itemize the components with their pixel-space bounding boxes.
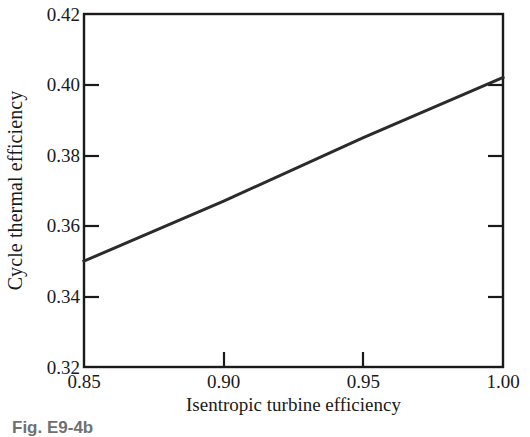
x-axis-tick-labels: 0.85 0.90 0.95 1.00 <box>0 371 530 395</box>
x-tick-label: 1.00 <box>473 371 530 393</box>
x-tick-label: 0.85 <box>54 371 114 393</box>
x-tick-label: 0.90 <box>194 371 254 393</box>
x-tick-label: 0.95 <box>333 371 393 393</box>
x-axis-ticks <box>224 352 363 367</box>
data-series-line <box>84 78 503 262</box>
x-axis-title: Isentropic turbine efficiency <box>84 394 503 416</box>
y-axis-ticks <box>84 85 503 297</box>
plot-frame <box>84 14 503 367</box>
figure-caption: Fig. E9-4b <box>12 419 93 436</box>
